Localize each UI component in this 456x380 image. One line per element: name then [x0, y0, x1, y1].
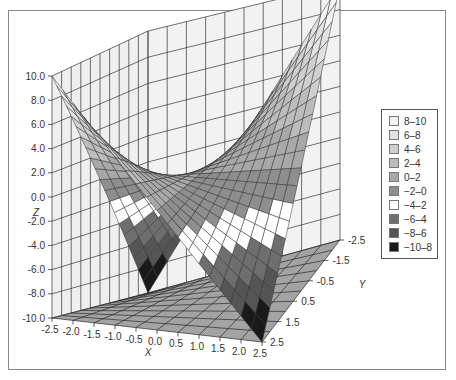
svg-text:0.0: 0.0 — [31, 192, 45, 203]
svg-text:0.0: 0.0 — [148, 336, 162, 347]
legend-label: 6–8 — [404, 130, 421, 141]
legend-swatch — [389, 186, 399, 196]
legend: 8–106–84–62–40–2−2–0−4–2−6–4−8–6−10–8 — [381, 109, 438, 259]
svg-text:-4.0: -4.0 — [28, 240, 46, 251]
svg-text:-10.0: -10.0 — [22, 313, 45, 324]
legend-swatch — [389, 144, 399, 154]
svg-text:-1.5: -1.5 — [83, 329, 101, 340]
legend-item: −8–6 — [389, 226, 437, 240]
svg-text:0.5: 0.5 — [169, 338, 183, 349]
svg-text:Y: Y — [359, 279, 367, 290]
legend-item: −2–0 — [389, 184, 437, 198]
svg-text:X: X — [144, 347, 152, 358]
legend-label: 8–10 — [404, 116, 426, 127]
svg-text:10.0: 10.0 — [26, 71, 46, 82]
svg-text:-6.0: -6.0 — [28, 264, 46, 275]
legend-label: −2–0 — [404, 186, 427, 197]
legend-swatch — [389, 242, 399, 252]
legend-label: −4–2 — [404, 200, 427, 211]
svg-text:2.0: 2.0 — [232, 346, 246, 357]
legend-item: −6–4 — [389, 212, 437, 226]
svg-text:-2.5: -2.5 — [41, 324, 59, 335]
svg-text:-1.5: -1.5 — [332, 255, 350, 266]
svg-text:1.5: 1.5 — [286, 317, 300, 328]
svg-text:8.0: 8.0 — [31, 95, 45, 106]
legend-swatch — [389, 130, 399, 140]
legend-label: 4–6 — [404, 144, 421, 155]
legend-swatch — [389, 172, 399, 182]
svg-text:2.5: 2.5 — [270, 337, 284, 348]
legend-item: −10–8 — [389, 240, 437, 254]
legend-item: 8–10 — [389, 114, 437, 128]
legend-label: 2–4 — [404, 158, 421, 169]
svg-text:4.0: 4.0 — [31, 143, 45, 154]
legend-item: 6–8 — [389, 128, 437, 142]
legend-item: 4–6 — [389, 142, 437, 156]
legend-label: −6–4 — [404, 214, 427, 225]
svg-text:-0.5: -0.5 — [317, 276, 335, 287]
legend-swatch — [389, 214, 399, 224]
legend-label: −10–8 — [404, 242, 432, 253]
svg-text:1.5: 1.5 — [211, 343, 225, 354]
legend-item: 0–2 — [389, 170, 437, 184]
svg-text:2.5: 2.5 — [253, 348, 267, 359]
svg-text:-0.5: -0.5 — [125, 334, 143, 345]
legend-swatch — [389, 228, 399, 238]
svg-text:-2.5: -2.5 — [348, 235, 366, 246]
svg-text:Z: Z — [32, 207, 40, 218]
legend-swatch — [389, 200, 399, 210]
svg-text:2.0: 2.0 — [31, 167, 45, 178]
legend-label: −8–6 — [404, 228, 427, 239]
svg-text:-8.0: -8.0 — [28, 288, 46, 299]
legend-swatch — [389, 116, 399, 126]
svg-text:1.0: 1.0 — [190, 341, 204, 352]
legend-swatch — [389, 158, 399, 168]
legend-item: 2–4 — [389, 156, 437, 170]
legend-label: 0–2 — [404, 172, 421, 183]
svg-text:0.5: 0.5 — [301, 296, 315, 307]
svg-text:6.0: 6.0 — [31, 119, 45, 130]
legend-item: −4–2 — [389, 198, 437, 212]
svg-text:-2.0: -2.0 — [62, 326, 80, 337]
svg-text:-1.0: -1.0 — [104, 331, 122, 342]
